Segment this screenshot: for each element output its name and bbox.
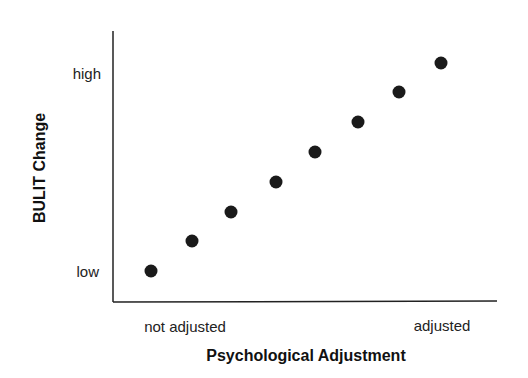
data-point [270, 176, 283, 189]
y-axis-title: BULIT Change [31, 113, 48, 223]
y-tick-high: high [73, 65, 101, 82]
axes [113, 31, 497, 302]
data-points [145, 57, 448, 278]
x-axis [113, 301, 497, 302]
data-point [393, 86, 406, 99]
y-tick-low: low [76, 263, 99, 280]
data-point [145, 265, 158, 278]
x-tick-low: not adjusted [144, 318, 226, 335]
x-tick-high: adjusted [414, 317, 471, 334]
data-point [186, 235, 199, 248]
scatter-chart: high low not adjusted adjusted Psycholog… [0, 0, 528, 378]
data-point [225, 206, 238, 219]
data-point [352, 116, 365, 129]
data-point [309, 146, 322, 159]
data-point [435, 57, 448, 70]
x-axis-title: Psychological Adjustment [206, 347, 406, 364]
